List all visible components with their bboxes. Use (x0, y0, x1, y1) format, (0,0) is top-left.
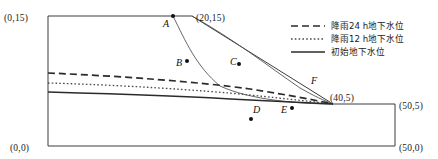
point-label-A: A (162, 18, 170, 29)
coord-label-bottom-left: (0,0) (10, 143, 29, 154)
point-dot-A (171, 14, 175, 18)
legend: 降雨24 h地下水位 降雨12 h地下水位 初始地下水位 (291, 20, 404, 57)
point-label-C: C (230, 56, 237, 67)
legend-label-initial: 初始地下水位 (331, 46, 385, 57)
coord-label-top-right: (50,5) (399, 101, 423, 112)
coord-label-bottom-right: (50,0) (399, 143, 423, 154)
point-dot-B (185, 59, 189, 63)
figure-container: A B C D E F (0,15) (0,0) (20,15) (40,5) … (0, 0, 438, 159)
waterline-initial (48, 92, 333, 104)
point-markers (171, 14, 294, 121)
point-label-F: F (310, 75, 318, 86)
coord-label-toe: (40,5) (330, 93, 354, 104)
point-label-E: E (280, 104, 287, 115)
legend-label-rain-12h: 降雨12 h地下水位 (331, 33, 404, 44)
legend-label-rain-24h: 降雨24 h地下水位 (331, 20, 404, 31)
slope-diagram-svg: A B C D E F (0,15) (0,0) (20,15) (40,5) … (0, 0, 438, 159)
point-label-D: D (252, 104, 261, 115)
coord-label-crest: (20,15) (196, 13, 225, 24)
point-dot-E (290, 106, 294, 110)
point-dot-D (249, 117, 253, 121)
coord-label-top-left: (0,15) (4, 13, 28, 24)
point-dot-C (237, 62, 241, 66)
point-label-B: B (176, 57, 182, 68)
